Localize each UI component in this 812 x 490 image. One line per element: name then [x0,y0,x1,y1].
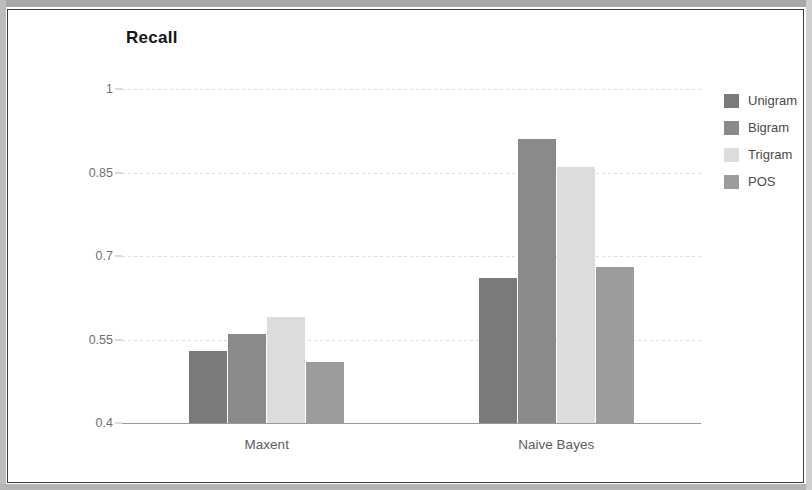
y-axis-tick-mark [115,423,122,424]
legend-item-trigram: Trigram [724,141,812,168]
chart-title: Recall [126,28,178,48]
legend-label: POS [748,174,775,189]
y-axis-tick-label: 0.4 [96,416,113,430]
x-axis-category-label: Naive Bayes [518,437,594,452]
screenshot-page: Recall 0.40.550.70.851MaxentNaive Bayes … [0,0,812,490]
page-edge-right [806,0,812,490]
y-axis-tick-label: 0.7 [96,249,113,263]
bar-bigram-maxent [228,334,266,423]
legend-swatch-icon [724,175,739,189]
legend-label: Trigram [748,147,792,162]
legend-item-pos: POS [724,168,812,195]
gridline [122,89,701,90]
y-axis-tick-mark [115,339,122,340]
gridline [122,173,701,174]
bar-pos-naive-bayes [596,267,634,423]
page-edge-top [0,0,812,7]
bar-pos-maxent [306,362,344,423]
y-axis-tick-mark [115,172,122,173]
page-edge-bottom [0,484,812,490]
chart-frame: Recall 0.40.550.70.851MaxentNaive Bayes … [7,9,804,483]
page-edge-left [0,0,6,490]
bar-unigram-naive-bayes [479,278,517,423]
y-axis-tick-mark [115,89,122,90]
legend-label: Unigram [748,93,797,108]
chart-legend: UnigramBigramTrigramPOS [724,87,812,195]
legend-swatch-icon [724,94,739,108]
bar-trigram-maxent [267,317,305,423]
axis-baseline [122,423,701,424]
y-axis-tick-label: 1 [106,82,113,96]
plot-area: 0.40.550.70.851MaxentNaive Bayes [122,89,701,423]
legend-label: Bigram [748,120,789,135]
bar-chart: Recall 0.40.550.70.851MaxentNaive Bayes … [8,10,805,484]
bar-trigram-naive-bayes [557,167,595,423]
legend-item-bigram: Bigram [724,114,812,141]
legend-swatch-icon [724,148,739,162]
legend-swatch-icon [724,121,739,135]
y-axis-tick-label: 0.85 [89,166,113,180]
bar-unigram-maxent [189,351,227,423]
legend-item-unigram: Unigram [724,87,812,114]
y-axis-tick-label: 0.55 [89,333,113,347]
gridline [122,256,701,257]
bar-bigram-naive-bayes [518,139,556,423]
x-axis-category-label: Maxent [245,437,289,452]
y-axis-tick-mark [115,256,122,257]
